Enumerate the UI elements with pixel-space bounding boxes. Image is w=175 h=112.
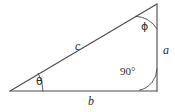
theta-angle-label: θ — [36, 76, 43, 87]
right-angle-arc — [140, 69, 158, 90]
base-label: b — [88, 95, 94, 107]
hypotenuse-label: c — [75, 40, 80, 52]
hypotenuse-side-line — [10, 4, 157, 91]
right-angle-label: 90° — [120, 66, 135, 77]
phi-angle-label: ϕ — [141, 21, 148, 32]
right-triangle-diagram: c b a θ ϕ 90° — [0, 0, 175, 112]
vertical-side-label: a — [163, 44, 169, 56]
